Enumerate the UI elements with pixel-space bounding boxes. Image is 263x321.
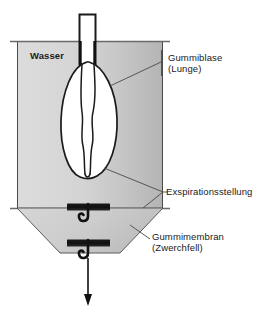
label-gummimembran: Gummimembran (Zwerchfell) [152, 231, 224, 253]
label-gummimembran-line2: (Zwerchfell) [152, 242, 224, 253]
label-wasser: Wasser [30, 50, 64, 61]
downward-pull-arrow [84, 258, 92, 306]
label-gummiblase-line1: Gummiblase [168, 52, 222, 63]
diagram-canvas [0, 0, 263, 321]
label-exspirationsstellung: Exspirationsstellung [166, 186, 253, 197]
label-gummimembran-line1: Gummimembran [152, 231, 224, 242]
arrow-head [84, 294, 92, 306]
atemmechanik-diagram: Wasser Gummiblase (Lunge) Exspirationsst… [0, 0, 263, 321]
label-gummiblase: Gummiblase (Lunge) [168, 52, 222, 74]
label-gummiblase-line2: (Lunge) [168, 63, 222, 74]
